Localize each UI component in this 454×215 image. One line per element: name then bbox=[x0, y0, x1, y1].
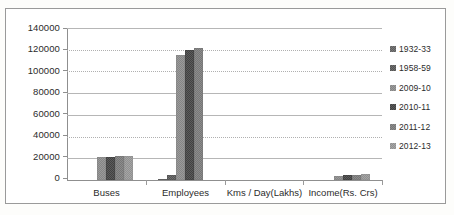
chart-frame: 140000 120000 100000 80000 60000 40000 2… bbox=[5, 8, 446, 204]
legend-item[interactable]: 2010-11 bbox=[390, 98, 450, 118]
bar bbox=[176, 55, 185, 180]
x-axis-tick-label: Income(Rs. Crs) bbox=[303, 187, 383, 198]
bar bbox=[334, 176, 343, 180]
legend-item[interactable]: 1932-33 bbox=[390, 39, 450, 59]
legend-item[interactable]: 1958-59 bbox=[390, 59, 450, 79]
legend-swatch-icon bbox=[390, 104, 396, 110]
legend-swatch-icon bbox=[390, 85, 396, 91]
y-axis-tick-label: 60000 bbox=[0, 109, 60, 119]
bar-group-kms bbox=[225, 28, 304, 180]
x-axis-tick-label: Buses bbox=[67, 187, 146, 198]
bar bbox=[115, 156, 124, 180]
bar-group-buses bbox=[67, 28, 146, 180]
bar bbox=[167, 175, 176, 180]
legend-swatch-icon bbox=[390, 46, 396, 52]
bar bbox=[194, 48, 203, 180]
bar-group-employees bbox=[146, 28, 225, 180]
x-axis-separator bbox=[146, 180, 147, 185]
legend-item-label: 2010-11 bbox=[399, 102, 430, 112]
legend-item-label: 2012-13 bbox=[399, 141, 431, 151]
bar bbox=[185, 50, 194, 180]
legend-item-label: 2009-10 bbox=[399, 83, 431, 93]
chart-legend: 1932-33 1958-59 2009-10 2010-11 2011-12 … bbox=[390, 39, 450, 156]
legend-item[interactable]: 2009-10 bbox=[390, 78, 450, 98]
y-axis-tick-label: 40000 bbox=[0, 130, 60, 140]
legend-item[interactable]: 2011-12 bbox=[390, 117, 450, 137]
x-axis-separator bbox=[303, 180, 304, 185]
x-axis-separator bbox=[382, 180, 383, 185]
bar bbox=[124, 156, 133, 180]
bar bbox=[97, 157, 106, 180]
y-axis-tick-label: 140000 bbox=[0, 23, 60, 33]
legend-swatch-icon bbox=[390, 65, 396, 71]
bar-group-income bbox=[303, 28, 382, 180]
legend-swatch-icon bbox=[390, 143, 396, 149]
y-axis-tick-label: 20000 bbox=[0, 152, 60, 162]
legend-item-label: 2011-12 bbox=[399, 122, 430, 132]
y-axis-tick-label: 100000 bbox=[0, 66, 60, 76]
bar bbox=[106, 157, 115, 180]
bar bbox=[158, 179, 167, 180]
y-axis-tick-label: 0 bbox=[0, 173, 60, 183]
bar bbox=[352, 175, 361, 180]
legend-item-label: 1958-59 bbox=[399, 63, 431, 73]
x-axis-separator bbox=[225, 180, 226, 185]
plot-area bbox=[67, 28, 382, 180]
legend-item[interactable]: 2012-13 bbox=[390, 137, 450, 157]
legend-swatch-icon bbox=[390, 124, 396, 130]
bar bbox=[343, 175, 352, 180]
x-axis-tick-label: Employees bbox=[146, 187, 225, 198]
legend-item-label: 1932-33 bbox=[399, 44, 431, 54]
bar bbox=[361, 174, 370, 180]
y-axis-tick-label: 120000 bbox=[0, 44, 60, 54]
y-axis-tick-label: 80000 bbox=[0, 87, 60, 97]
x-axis-tick-label: Kms / Day(Lakhs) bbox=[225, 187, 304, 198]
